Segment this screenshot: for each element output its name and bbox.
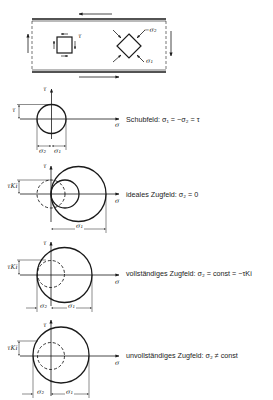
mohr-diagram-ideales-zugfeld — [17, 166, 119, 233]
d2-sigma-axis-label: σ — [115, 198, 119, 205]
d1-sigma-axis-label: σ — [115, 122, 119, 129]
shear-panel — [28, 14, 171, 77]
d3-tau-ki-dim-label: τKi — [7, 264, 18, 271]
plate-minus-sigma2-label: −σ₂ — [144, 27, 157, 34]
mohr-diagram-unvollstaendiges-zugfeld — [17, 320, 119, 398]
d3-sigma2-dim-label: σ₂ — [40, 303, 47, 310]
d1-sigma2-dim-label: σ₂ — [39, 148, 46, 155]
plate-tau-label: τ — [78, 33, 82, 40]
d1-sigma1-dim-label: σ₁ — [54, 148, 61, 155]
mohr-circle — [33, 327, 89, 383]
d3-tau-axis-label: τ — [43, 240, 47, 247]
d1-caption: Schubfeld: σ₁ = −σ₂ = τ — [126, 116, 199, 123]
d2-caption: ideales Zugfeld: σ₂ = 0 — [126, 191, 198, 198]
figure-canvas — [0, 0, 273, 400]
d4-sigma1-dim-label: σ₁ — [65, 389, 74, 396]
d4-caption: unvollständiges Zugfeld: σ₂ ≠ const — [126, 352, 238, 359]
d1-tau-axis-label: τ — [43, 86, 47, 93]
d4-tau-ki-dim-label: τKi — [7, 345, 18, 352]
d1-tau-dim-label: τ — [12, 107, 16, 114]
d4-sigma-axis-label: σ — [115, 360, 119, 367]
d2-sigma1-dim-label: σ₁ — [75, 223, 84, 230]
d3-caption: vollständiges Zugfeld: σ₂ = const = −τKi — [126, 270, 252, 277]
plate-sigma1-label: σ₁ — [146, 58, 153, 65]
d2-tau-ki-dim-label: τKi — [7, 183, 18, 190]
d4-tau-axis-label: τ — [43, 322, 47, 329]
mohr-diagram-schubfeld — [17, 89, 119, 150]
d3-sigma1-dim-label: σ₁ — [67, 303, 76, 310]
d3-sigma-axis-label: σ — [115, 279, 119, 286]
shear-element-square — [57, 37, 72, 53]
d4-sigma2-dim-label: σ₂ — [37, 389, 44, 396]
d2-tau-axis-label: τ — [43, 163, 47, 170]
